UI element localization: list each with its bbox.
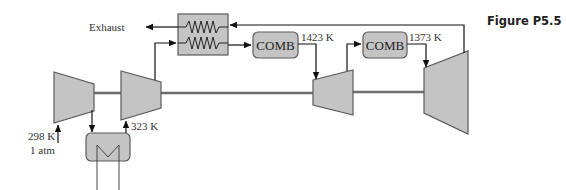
combustor-2-label: COMB: [366, 38, 405, 53]
figure-caption: Figure P5.5: [487, 14, 562, 28]
turbine-hp-to-comb2-line: [347, 44, 361, 71]
hp-to-regenerator-line: [155, 43, 176, 80]
combustor-1-label: COMB: [256, 38, 295, 53]
inlet-pressure-label: 1 atm: [30, 144, 55, 156]
inlet-temp-label: 298 K: [28, 130, 55, 142]
gas-turbine-cycle-diagram: 298 K 1 atm 323 K Exhaust COMB 1423 K CO…: [0, 0, 566, 190]
comb1-to-turbine-hp-line: [298, 44, 316, 79]
intercooler-exit-temp-label: 323 K: [131, 120, 158, 132]
comb2-to-turbine-lp-line: [407, 44, 426, 67]
compressor-lp: [54, 72, 94, 123]
turbine-hp: [313, 70, 353, 115]
comb1-exit-temp-label: 1423 K: [301, 31, 334, 43]
comb2-exit-temp-label: 1373 K: [409, 31, 442, 43]
exhaust-label: Exhaust: [89, 21, 124, 33]
regenerator: [178, 14, 228, 55]
turbine-lp: [424, 51, 468, 134]
